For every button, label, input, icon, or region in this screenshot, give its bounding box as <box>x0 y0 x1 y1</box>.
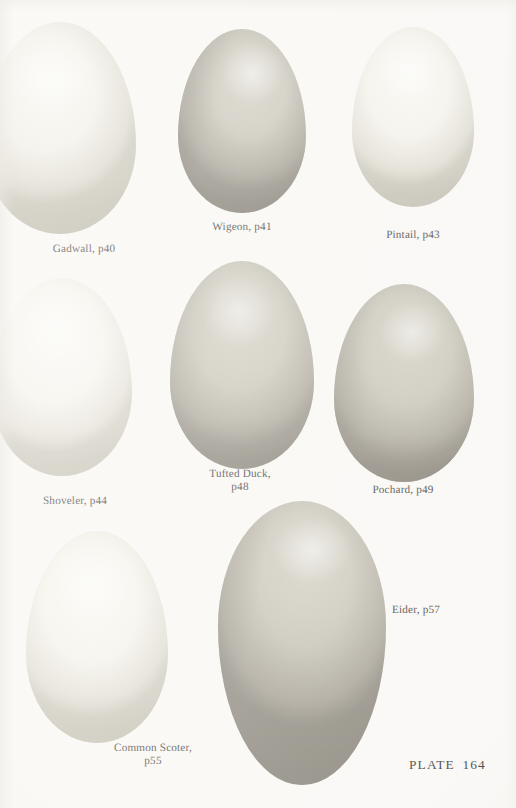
egg-eider <box>218 501 386 785</box>
egg-pochard-body <box>334 284 474 482</box>
label-eider: Eider, p57 <box>392 604 492 617</box>
egg-pintail-body <box>352 27 474 207</box>
egg-tufted-duck <box>170 261 314 469</box>
label-gadwall: Gadwall, p40 <box>9 243 159 256</box>
label-shoveler: Shoveler, p44 <box>2 495 148 508</box>
label-tufted-duck: Tufted Duck, p48 <box>167 468 313 495</box>
egg-gadwall-body <box>0 22 136 234</box>
egg-shoveler-body <box>0 278 132 476</box>
label-wigeon: Wigeon, p41 <box>169 221 315 234</box>
egg-tufted-duck-body <box>170 261 314 469</box>
egg-common-scoter <box>26 531 168 743</box>
label-pintail: Pintail, p43 <box>340 229 486 242</box>
egg-wigeon <box>178 29 306 213</box>
egg-common-scoter-body <box>26 531 168 743</box>
egg-pintail <box>352 27 474 207</box>
plate-number: PLATE 164 <box>409 757 486 773</box>
egg-pochard <box>334 284 474 482</box>
label-pochard: Pochard, p49 <box>330 484 476 497</box>
egg-gadwall <box>0 22 136 234</box>
egg-plate-figure: Gadwall, p40 Wigeon, p41 Pintail, p43 Sh… <box>0 0 516 808</box>
egg-shoveler <box>0 278 132 476</box>
egg-wigeon-body <box>178 29 306 213</box>
egg-eider-body <box>218 501 386 785</box>
label-common-scoter: Common Scoter, p55 <box>80 742 226 769</box>
